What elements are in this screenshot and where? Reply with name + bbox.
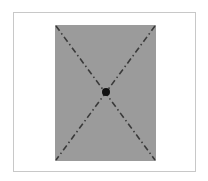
diagram-canvas [0,0,208,181]
center-point-marker [102,88,110,96]
